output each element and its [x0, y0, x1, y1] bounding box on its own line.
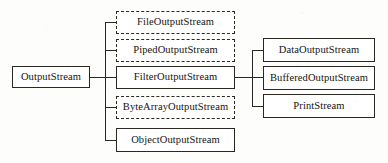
node-data-output-stream-label: DataOutputStream: [279, 45, 359, 56]
node-object-output-stream[interactable]: ObjectOutputStream: [116, 128, 235, 152]
node-print-stream-label: PrintStream: [293, 101, 344, 112]
node-file-output-stream-label: FileOutputStream: [137, 17, 214, 28]
node-filter-output-stream-label: FilterOutputStream: [134, 72, 217, 83]
node-file-output-stream[interactable]: FileOutputStream: [116, 11, 235, 34]
node-piped-output-stream[interactable]: PipedOutputStream: [116, 39, 235, 62]
node-byte-array-output-stream-label: ByteArrayOutputStream: [123, 102, 228, 113]
edge-right-trunk: [252, 50, 253, 106]
edge-left-trunk: [105, 22, 106, 141]
node-filter-output-stream[interactable]: FilterOutputStream: [116, 66, 235, 89]
node-data-output-stream[interactable]: DataOutputStream: [263, 38, 375, 62]
node-piped-output-stream-label: PipedOutputStream: [133, 45, 218, 56]
node-print-stream[interactable]: PrintStream: [263, 94, 375, 118]
node-byte-array-output-stream[interactable]: ByteArrayOutputStream: [116, 96, 235, 119]
node-output-stream-label: OutputStream: [21, 72, 81, 83]
node-object-output-stream-label: ObjectOutputStream: [131, 135, 220, 146]
node-buffered-output-stream-label: BufferedOutputStream: [270, 73, 368, 84]
edge-filter-stub: [235, 77, 252, 78]
edge-root-stub: [90, 77, 106, 78]
class-hierarchy-diagram: OutputStream FileOutputStream PipedOutpu…: [0, 0, 388, 163]
node-buffered-output-stream[interactable]: BufferedOutputStream: [263, 66, 375, 90]
node-output-stream[interactable]: OutputStream: [12, 66, 90, 88]
